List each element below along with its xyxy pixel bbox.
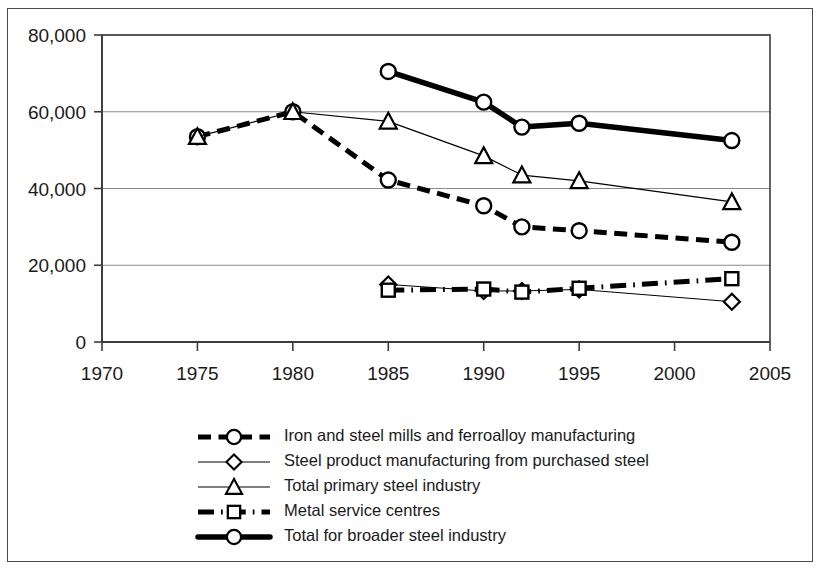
series-2 — [189, 103, 740, 209]
data-point-marker-circle — [381, 64, 396, 79]
y-tick-label: 60,000 — [28, 102, 86, 123]
data-point-marker-circle — [514, 219, 529, 234]
x-tick-label: 1970 — [81, 363, 123, 384]
y-tick-label: 0 — [75, 332, 86, 353]
x-tick-label: 1990 — [463, 363, 505, 384]
x-tick-label: 1980 — [272, 363, 314, 384]
x-tick-label: 1985 — [367, 363, 409, 384]
series-4 — [381, 64, 740, 148]
data-point-marker-triangle — [513, 167, 530, 183]
legend-item-4[interactable]: Total for broader steel industry — [198, 526, 507, 544]
series-line — [388, 284, 732, 301]
x-tick-label: 1975 — [176, 363, 218, 384]
data-point-marker-diamond — [724, 294, 740, 310]
data-series — [189, 64, 740, 310]
legend-label: Total for broader steel industry — [284, 526, 507, 544]
data-point-marker-triangle — [475, 147, 492, 163]
series-0 — [190, 104, 739, 249]
data-point-marker-diamond — [226, 454, 241, 469]
legend-item-3[interactable]: Metal service centres — [198, 501, 440, 519]
y-tick-label: 40,000 — [28, 179, 86, 200]
series-line — [388, 279, 732, 292]
y-tick-label: 20,000 — [28, 255, 86, 276]
data-point-marker-square — [725, 272, 738, 285]
data-point-marker-circle — [227, 530, 241, 544]
data-point-marker-square — [515, 286, 528, 299]
legend-label: Steel product manufacturing from purchas… — [284, 451, 649, 469]
data-point-marker-circle — [476, 198, 491, 213]
y-axis-ticks: 020,00040,00060,00080,000 — [28, 25, 102, 353]
line-chart: 020,00040,00060,00080,000 19701975198019… — [0, 0, 822, 572]
legend-item-1[interactable]: Steel product manufacturing from purchas… — [198, 451, 649, 469]
data-point-marker-square — [228, 506, 240, 518]
x-tick-label: 2000 — [653, 363, 695, 384]
data-point-marker-square — [573, 282, 586, 295]
chart-legend: Iron and steel mills and ferroalloy manu… — [198, 426, 649, 544]
data-point-marker-triangle — [226, 479, 242, 494]
series-line — [388, 71, 732, 140]
x-tick-label: 2005 — [749, 363, 791, 384]
data-point-marker-circle — [572, 223, 587, 238]
data-point-marker-circle — [572, 116, 587, 131]
data-point-marker-circle — [227, 430, 241, 444]
legend-item-0[interactable]: Iron and steel mills and ferroalloy manu… — [198, 426, 635, 444]
data-point-marker-circle — [476, 95, 491, 110]
legend-label: Total primary steel industry — [284, 476, 481, 494]
data-point-marker-circle — [514, 120, 529, 135]
data-point-marker-circle — [724, 133, 739, 148]
data-point-marker-circle — [381, 173, 396, 188]
data-point-marker-circle — [724, 235, 739, 250]
x-tick-label: 1995 — [558, 363, 600, 384]
data-point-marker-square — [477, 283, 490, 296]
chart-figure: 020,00040,00060,00080,000 19701975198019… — [0, 0, 822, 572]
legend-label: Iron and steel mills and ferroalloy manu… — [284, 426, 635, 444]
data-point-marker-square — [382, 284, 395, 297]
x-axis-ticks: 19701975198019851990199520002005 — [81, 342, 791, 384]
y-tick-label: 80,000 — [28, 25, 86, 46]
series-3 — [382, 272, 739, 298]
legend-label: Metal service centres — [284, 501, 440, 519]
gridlines — [102, 35, 770, 265]
legend-item-2[interactable]: Total primary steel industry — [198, 476, 481, 494]
